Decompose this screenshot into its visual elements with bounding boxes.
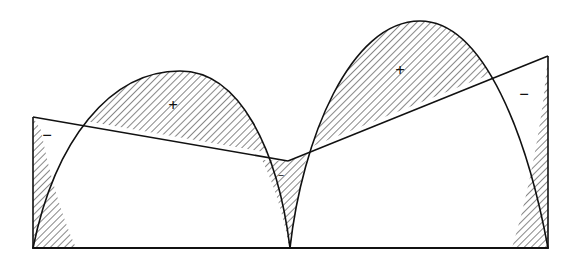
sign-label-center-negative: −	[278, 169, 284, 181]
sign-label-right-negative: −	[519, 85, 529, 104]
region-center-negative-cusp	[262, 154, 308, 247]
figure-container: − + − + −	[0, 0, 572, 266]
sign-label-right-positive: +	[395, 61, 405, 80]
sign-label-left-positive: +	[168, 96, 178, 115]
signed-area-figure: − + − + −	[0, 0, 572, 266]
sign-label-left-negative: −	[42, 126, 52, 145]
region-right-positive	[33, 0, 548, 156]
